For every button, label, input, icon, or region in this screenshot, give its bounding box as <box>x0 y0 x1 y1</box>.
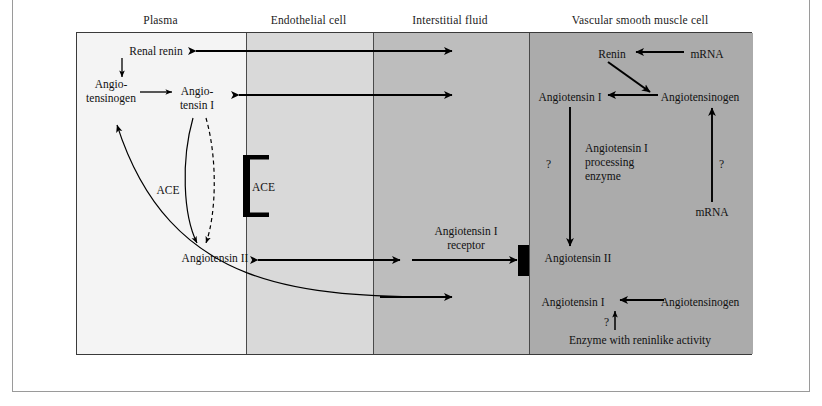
label-processing-enzyme-line1: Angiotensin I <box>585 142 648 155</box>
label-question-mark-left: ? <box>546 158 551 170</box>
label-vsmc-mrna-bottom: mRNA <box>695 206 728 219</box>
label-angiotensin-i-receptor-line2: receptor <box>447 239 485 252</box>
label-processing-enzyme-line2: processing <box>585 156 634 169</box>
label-vsmc-angiotensin-ii: Angiotensin II <box>545 252 612 265</box>
label-renal-renin: Renal renin <box>129 45 182 58</box>
label-angiotensinogen-line1: Angio- <box>95 78 128 91</box>
label-vsmc-angiotensinogen-bottom: Angiotensinogen <box>661 296 740 309</box>
label-vsmc-angiotensin-i-top: Angiotensin I <box>539 91 602 104</box>
figure-canvas: Plasma Endothelial cell Interstitial flu… <box>0 0 822 406</box>
label-question-mark-right: ? <box>719 158 724 170</box>
label-reninlike-enzyme: Enzyme with reninlike activity <box>569 334 711 347</box>
label-question-mark-bottom: ? <box>604 316 609 328</box>
label-angiotensin-i-receptor-line1: Angiotensin I <box>435 225 498 238</box>
label-vsmc-angiotensinogen-top: Angiotensinogen <box>661 91 740 104</box>
column-header-plasma: Plasma <box>76 14 245 26</box>
label-plasma-angiotensin-ii: Angiotensin II <box>182 252 249 265</box>
column-header-interstitial-fluid: Interstitial fluid <box>372 14 528 26</box>
label-angiotensinogen-line2: tensinogen <box>86 92 136 105</box>
label-plasma-ace: ACE <box>157 184 180 197</box>
label-vsmc-mrna-top: mRNA <box>690 48 723 61</box>
label-vsmc-angiotensin-i-bottom: Angiotensin I <box>542 296 605 309</box>
label-endothelial-ace: ACE <box>252 181 275 194</box>
column-header-endothelial-cell: Endothelial cell <box>245 14 372 26</box>
column-header-vascular-smooth-muscle-cell: Vascular smooth muscle cell <box>528 14 752 26</box>
label-plasma-angiotensin-i-line2: tensin I <box>180 99 214 112</box>
label-vsmc-renin: Renin <box>598 48 625 61</box>
label-plasma-angiotensin-i-line1: Angio- <box>181 85 214 98</box>
label-processing-enzyme-line3: enzyme <box>585 170 621 183</box>
column-interstitial-fluid <box>373 33 529 354</box>
